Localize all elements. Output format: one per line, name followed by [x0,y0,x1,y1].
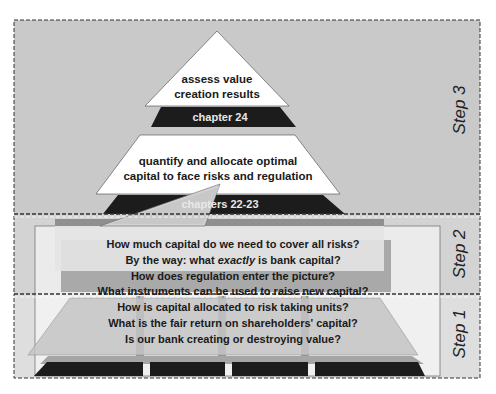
question-bank-capital-part2: is bank capital? [258,254,341,266]
base-block-2 [150,362,225,376]
pyramid-middle-line-1: quantify and allocate optimal [100,154,336,169]
pyramid-top-text: assess value creation results [157,72,277,102]
pyramid-middle-text: quantify and allocate optimal capital to… [100,154,336,184]
question-bank-capital: By the way: what exactly is bank capital… [0,252,466,268]
pyramid-middle-line-2: capital to face risks and regulation [100,169,336,184]
question-regulation: How does regulation enter the picture? [0,268,466,284]
base-block-1 [34,362,143,376]
question-bank-capital-emphasis: exactly [218,254,255,266]
pyramid-top-line-2: creation results [157,87,277,102]
question-cover-risks: How much capital do we need to cover all… [0,236,466,252]
chapters22-23-label: chapters 22-23 [170,197,270,211]
question-value-creation: Is our bank creating or destroying value… [0,331,466,347]
step3-label: Step 3 [450,70,470,150]
question-allocation: How is capital allocated to risk taking … [0,299,466,315]
step2-label: Step 2 [450,214,470,294]
step1-label: Step 1 [450,294,470,374]
question-bank-capital-part1: By the way: what [125,254,214,266]
base-block-3 [232,362,308,376]
chapter24-label: chapter 24 [160,110,280,124]
question-instruments: What instruments can be used to raise ne… [0,283,466,299]
pyramid-top-line-1: assess value [157,72,277,87]
base-block-4 [315,362,425,376]
question-fair-return: What is the fair return on shareholders'… [0,315,466,331]
diagram-canvas: assess value creation results chapter 24… [0,0,496,394]
